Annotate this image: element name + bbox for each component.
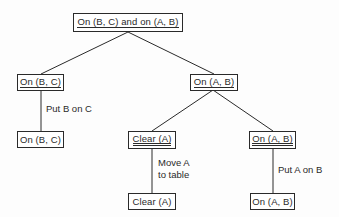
- edge-root-right: [128, 32, 214, 74]
- edge-label-put-b-on-c: Put B on C: [46, 103, 92, 115]
- node-root-goal: On (B, C) and on (A, B): [73, 13, 183, 32]
- node-label: On (A, B): [194, 77, 235, 89]
- node-label: On (B, C): [20, 77, 61, 89]
- node-label: Clear (A): [133, 134, 172, 147]
- node-label: Clear (A): [133, 197, 172, 207]
- edge-right-on: [213, 90, 273, 131]
- node-label: On (B, C): [20, 135, 61, 145]
- edge-label-move-a-line2: to table: [158, 169, 189, 181]
- node-on-b-c-leaf: On (B, C): [17, 131, 64, 148]
- node-label: On (A, B): [252, 134, 293, 147]
- node-clear-a-leaf: Clear (A): [128, 193, 176, 210]
- goal-tree-diagram: On (B, C) and on (A, B) On (B, C) On (A,…: [0, 0, 339, 217]
- edge-root-left: [41, 32, 128, 74]
- node-on-b-c-goal: On (B, C): [17, 74, 64, 91]
- node-on-a-b-leaf: On (A, B): [250, 193, 295, 210]
- edge-label-move-a-line1: Move A: [158, 157, 190, 169]
- edge-label-put-a-on-b: Put A on B: [278, 164, 322, 176]
- node-label: On (A, B): [252, 197, 293, 207]
- node-on-a-b-goal: On (A, B): [190, 74, 238, 91]
- node-on-a-b-subgoal: On (A, B): [249, 131, 296, 149]
- edge-right-clear: [152, 90, 213, 131]
- node-label: On (B, C) and on (A, B): [77, 17, 178, 29]
- node-clear-a-goal: Clear (A): [128, 131, 176, 149]
